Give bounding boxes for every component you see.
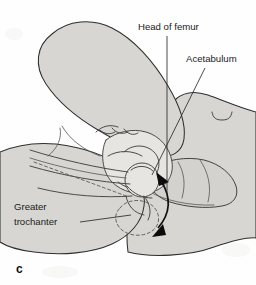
panel-letter: c — [16, 262, 23, 276]
label-acetabulum: Acetabulum — [186, 53, 237, 64]
figure-container: Head of femur Acetabulum Greater trochan… — [0, 0, 256, 285]
label-greater-trochanter-line-1: Greater — [14, 201, 47, 212]
label-greater-trochanter-line-2: trochanter — [14, 216, 58, 227]
hip-examination-illustration: Head of femur Acetabulum Greater trochan… — [0, 0, 256, 285]
label-head-of-femur: Head of femur — [138, 21, 200, 32]
femoral-head — [125, 163, 159, 197]
